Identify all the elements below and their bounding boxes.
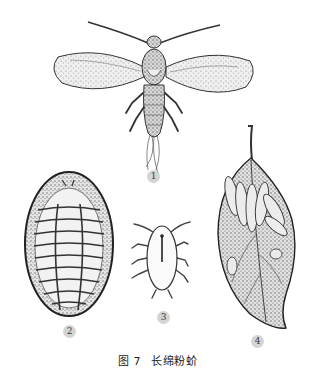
figure-number: 图 7 [118, 355, 141, 368]
panel-label-4: 4 [251, 335, 264, 348]
figure-panel-2-adult-female [22, 168, 118, 320]
figure-panel-4-leaf-ovisacs [210, 124, 300, 334]
panel-label-3: 3 [157, 311, 170, 324]
panel-label-1: 1 [147, 170, 160, 183]
panel-label-2: 2 [63, 325, 76, 338]
figure-panel-3-nymph [128, 218, 192, 302]
figure-caption: 图 7长绵粉蚧 [0, 352, 315, 368]
figure-title: 长绵粉蚧 [151, 355, 197, 368]
